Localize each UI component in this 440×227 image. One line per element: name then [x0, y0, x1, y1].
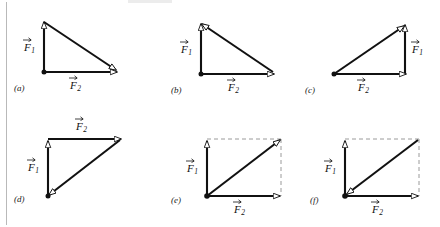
- panel-d-label-f2: F2: [76, 121, 87, 134]
- panel-f-diagram: [342, 139, 419, 199]
- panel-f-origin-dot: [342, 193, 348, 199]
- panel-b-label-f2: F2: [228, 82, 239, 95]
- panel-a-resultant: [44, 22, 116, 70]
- panel-label-f: (f): [310, 196, 319, 205]
- panel-d-origin-dot: [46, 194, 51, 199]
- panel-e-label-f2: F2: [234, 204, 245, 217]
- panel-a-origin-dot: [42, 70, 47, 75]
- panel-e-resultant: [207, 140, 280, 196]
- panel-label-e: (e): [171, 196, 181, 205]
- panel-f-label-f1: F1: [325, 163, 336, 176]
- vector-addition-figure: (a) (b) (c) (d) (e) (f) F1 F2 F1 F2 F1 F…: [0, 0, 440, 227]
- panel-b-resultant: [202, 24, 273, 72]
- vector-diagrams-canvas: [0, 0, 440, 227]
- panel-e-origin-dot: [204, 193, 210, 199]
- panel-c-label-f2: F2: [358, 82, 369, 95]
- panel-label-b: (b): [171, 86, 182, 95]
- panel-label-a: (a): [14, 84, 25, 93]
- panel-a-label-f1: F1: [24, 42, 35, 55]
- panel-c-label-f1: F1: [412, 44, 423, 57]
- panel-c-diagram: [332, 25, 407, 77]
- panel-label-c: (c): [305, 86, 315, 95]
- panel-f-label-f2: F2: [372, 204, 383, 217]
- panel-d-diagram: [46, 139, 122, 199]
- panel-c-origin-dot: [332, 72, 337, 77]
- panel-label-d: (d): [14, 195, 25, 204]
- panel-e-diagram: [204, 139, 281, 199]
- panel-d-resultant: [49, 140, 120, 195]
- panel-b-label-f1: F1: [181, 44, 192, 57]
- panel-b-diagram: [199, 24, 275, 77]
- panel-f-resultant: [347, 140, 418, 194]
- panel-d-label-f1: F1: [28, 162, 39, 175]
- panel-b-origin-dot: [199, 72, 204, 77]
- panel-a-diagram: [42, 22, 118, 75]
- panel-e-label-f1: F1: [187, 163, 198, 176]
- panel-a-label-f2: F2: [70, 80, 81, 93]
- panel-c-resultant: [334, 26, 404, 74]
